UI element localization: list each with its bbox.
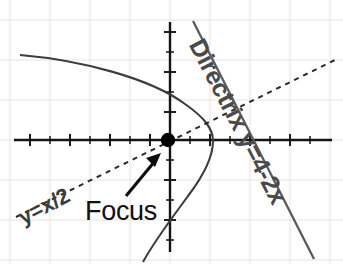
focus-arrow <box>126 153 161 196</box>
parabola-curve <box>20 55 213 262</box>
grid-lines <box>0 0 343 264</box>
focus-point-marker <box>161 133 175 147</box>
focus-arrow-head <box>146 153 161 167</box>
parabola-figure: Directrix y=4-2x y=x/2 Focus <box>0 0 343 264</box>
graph-canvas <box>0 0 343 264</box>
focus-label: Focus <box>85 196 157 227</box>
